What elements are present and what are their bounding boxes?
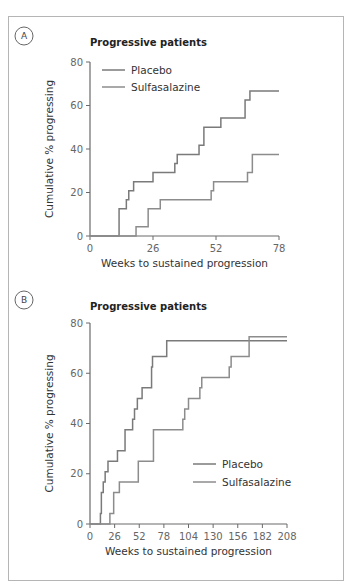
x-tick-label: 26 bbox=[147, 243, 160, 254]
y-tick-label: 0 bbox=[77, 231, 83, 242]
x-tick-label: 78 bbox=[273, 243, 286, 254]
panel-badge: B bbox=[15, 291, 33, 309]
y-tick-label: 60 bbox=[70, 368, 83, 379]
x-tick-label: 52 bbox=[133, 531, 146, 542]
y-tick-label: 40 bbox=[70, 144, 83, 155]
figure-canvas: AProgressive patients0204060800265278Wee… bbox=[0, 0, 354, 587]
panel-badge: A bbox=[15, 27, 33, 45]
chart-panel-b: BProgressive patients0204060800265278104… bbox=[15, 291, 297, 557]
chart-panel-a: AProgressive patients0204060800265278Wee… bbox=[15, 27, 285, 269]
x-tick-label: 208 bbox=[277, 531, 296, 542]
legend-label: Sulfasalazine bbox=[131, 81, 200, 93]
x-tick-label: 0 bbox=[87, 243, 93, 254]
y-tick-label: 0 bbox=[77, 519, 83, 530]
x-tick-label: 130 bbox=[204, 531, 223, 542]
x-tick-label: 26 bbox=[108, 531, 121, 542]
y-tick-label: 80 bbox=[70, 318, 83, 329]
x-tick-label: 0 bbox=[87, 531, 93, 542]
x-axis-title: Weeks to sustained progression bbox=[101, 257, 268, 269]
legend-label: Placebo bbox=[131, 64, 172, 76]
x-tick-label: 104 bbox=[179, 531, 198, 542]
series-sulfasalazine-line bbox=[90, 337, 287, 524]
series-placebo-line bbox=[90, 91, 279, 236]
chart-title: Progressive patients bbox=[90, 37, 207, 48]
y-tick-label: 20 bbox=[70, 187, 83, 198]
panel-label: A bbox=[21, 31, 28, 41]
series-placebo-line bbox=[90, 341, 287, 524]
chart-title: Progressive patients bbox=[90, 301, 207, 312]
y-axis-title: Cumulative % progressing bbox=[43, 354, 55, 492]
y-tick-label: 20 bbox=[70, 468, 83, 479]
x-tick-label: 156 bbox=[228, 531, 247, 542]
y-tick-label: 40 bbox=[70, 418, 83, 429]
x-tick-label: 182 bbox=[253, 531, 272, 542]
x-tick-label: 52 bbox=[210, 243, 223, 254]
y-tick-label: 60 bbox=[70, 100, 83, 111]
x-axis-title: Weeks to sustained progression bbox=[105, 545, 272, 557]
legend: PlaceboSulfasalazine bbox=[193, 458, 291, 488]
y-tick-label: 80 bbox=[70, 57, 83, 68]
x-tick-label: 78 bbox=[158, 531, 171, 542]
legend: PlaceboSulfasalazine bbox=[102, 64, 200, 93]
legend-label: Sulfasalazine bbox=[222, 476, 291, 488]
y-axis-title: Cumulative % progressing bbox=[43, 80, 55, 218]
panel-label: B bbox=[21, 295, 27, 305]
legend-label: Placebo bbox=[222, 458, 263, 470]
